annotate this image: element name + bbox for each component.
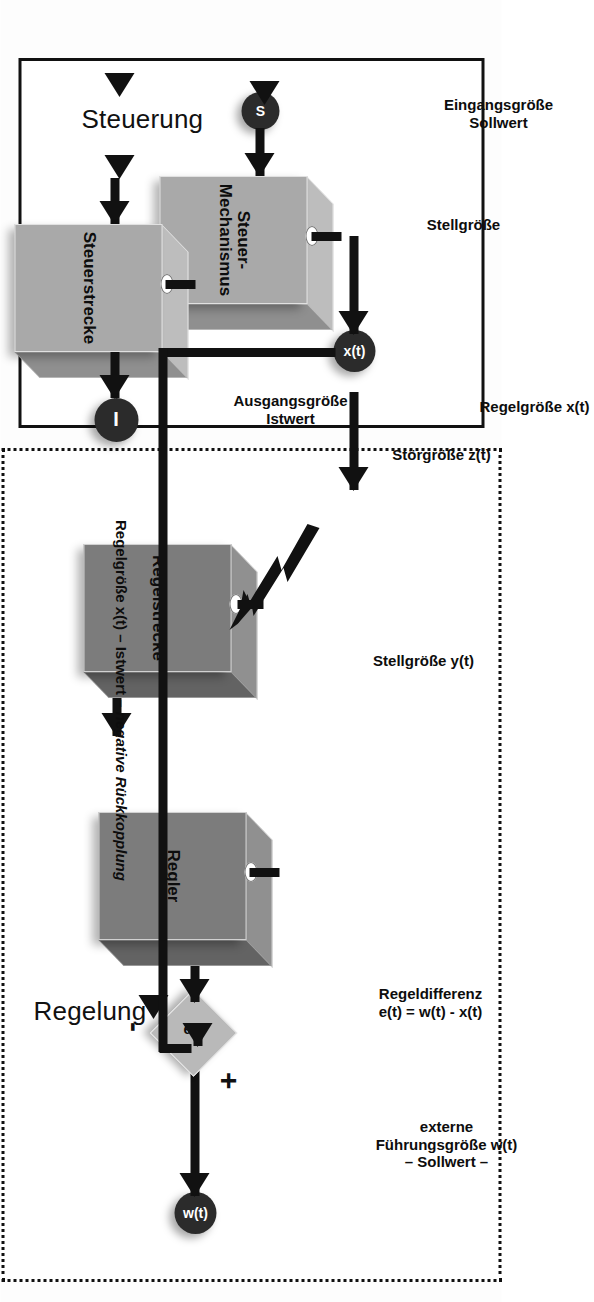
block-regelstrecke-label: Regelstrecke bbox=[83, 544, 231, 672]
caption-regelgroesse: Regelgröße x(t) bbox=[449, 398, 594, 416]
caption-ausgangsgroesse: Ausgangsgröße Istwert bbox=[205, 392, 375, 427]
block-steuerstrecke-label: Steuerstrecke bbox=[14, 224, 162, 352]
summation-minus-sign: - bbox=[119, 1022, 149, 1032]
node-sollwert-s-label: S bbox=[255, 103, 264, 119]
caption-stellgroesse-y: Stellgröße y(t) bbox=[333, 652, 513, 670]
feedback-path-vertical bbox=[159, 348, 335, 357]
caption-fuehrungsgroesse: externe Führungsgröße w(t) – Sollwert – bbox=[351, 1118, 541, 1171]
arrow-s-to-steuermechanismus bbox=[255, 128, 264, 176]
feedback-path-horizontal bbox=[158, 348, 167, 1052]
node-w-t-label: w(t) bbox=[183, 1205, 208, 1221]
node-x-t-label: x(t) bbox=[343, 343, 365, 359]
arrow-feedback-into-summation bbox=[193, 1028, 202, 1046]
block-side-face bbox=[83, 672, 256, 698]
caption-negative-rueckkopplung: Regelgröße x(t) – Istwert – negative Rüc… bbox=[112, 520, 129, 881]
node-w-t: w(t) bbox=[174, 1192, 216, 1234]
summation-plus-sign: + bbox=[213, 1072, 243, 1090]
disturbance-lightning-icon bbox=[219, 520, 329, 640]
arrow-system-output bbox=[349, 236, 358, 334]
shaft-steuermechanismus-out bbox=[311, 232, 341, 241]
caption-negative-rueckkopplung-italic: negative Rückkopplung bbox=[112, 712, 129, 881]
caption-eingangsgroesse: Eingangsgröße Sollwert bbox=[423, 96, 573, 131]
panel-steuerung-title: Steuerung bbox=[81, 104, 203, 135]
arrow-w-to-summation bbox=[190, 1060, 199, 1196]
shaft-steuerstrecke-out bbox=[165, 280, 195, 289]
block-side-face bbox=[98, 940, 271, 966]
caption-negative-rueckkopplung-plain: Regelgröße x(t) – Istwert – bbox=[112, 520, 129, 712]
arrow-steuermechanismus-to-steuerstrecke bbox=[110, 178, 119, 224]
caption-stoergroesse: Störgröße z(t) bbox=[351, 446, 531, 464]
shaft-regelstrecke-out bbox=[237, 600, 263, 609]
caption-stellgroesse: Stellgröße bbox=[403, 216, 523, 234]
node-istwert: I bbox=[94, 398, 138, 442]
shaft-regler-out bbox=[249, 868, 279, 877]
node-istwert-label: I bbox=[113, 409, 119, 432]
node-x-t: x(t) bbox=[333, 330, 375, 372]
caption-regeldifferenz: Regeldifferenz e(t) = w(t) - x(t) bbox=[335, 985, 525, 1020]
arrow-steuerstrecke-to-istwert bbox=[110, 352, 119, 398]
